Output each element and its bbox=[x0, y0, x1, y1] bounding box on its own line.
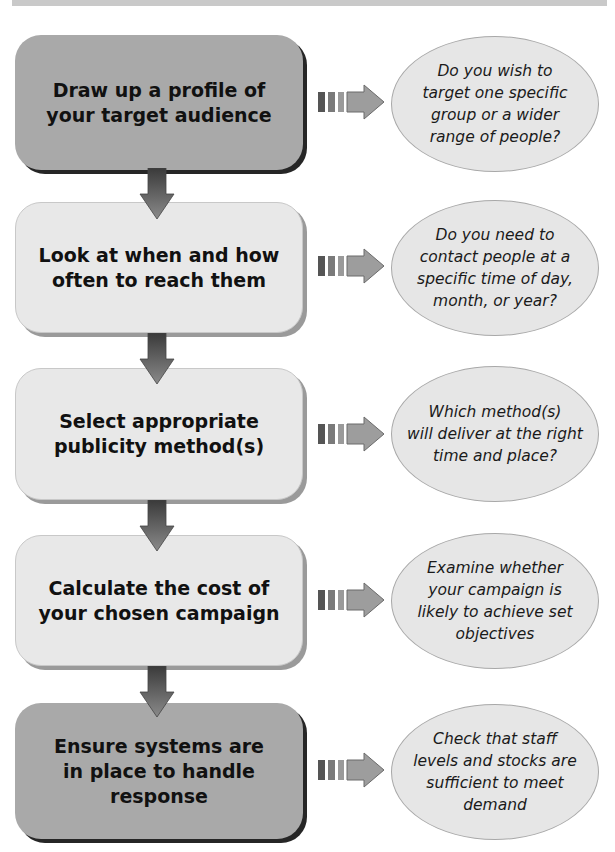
step-box-cost: Calculate the cost of your chosen campai… bbox=[15, 535, 303, 666]
down-arrow-icon bbox=[139, 500, 175, 552]
note-ellipse-cost: Examine whether your campaign is likely … bbox=[391, 533, 599, 669]
note-ellipse-timing: Do you need to contact people at a speci… bbox=[391, 200, 599, 336]
step-box-timing: Look at when and how often to reach them bbox=[15, 202, 303, 333]
down-arrow-icon bbox=[139, 333, 175, 385]
note-ellipse-audience: Do you wish to target one specific group… bbox=[391, 36, 599, 172]
note-ellipse-demand: Check that staff levels and stocks are s… bbox=[391, 704, 599, 840]
down-arrow-icon bbox=[139, 666, 175, 718]
step-box-response-systems: Ensure systems are in place to handle re… bbox=[15, 703, 303, 839]
striped-right-arrow-icon bbox=[316, 752, 386, 788]
step-box-profile-audience: Draw up a profile of your target audienc… bbox=[15, 35, 303, 170]
note-ellipse-methods: Which method(s) will deliver at the righ… bbox=[391, 366, 599, 502]
striped-right-arrow-icon bbox=[316, 248, 386, 284]
down-arrow-icon bbox=[139, 168, 175, 220]
top-rule bbox=[12, 0, 607, 6]
striped-right-arrow-icon bbox=[316, 84, 386, 120]
striped-right-arrow-icon bbox=[316, 416, 386, 452]
striped-right-arrow-icon bbox=[316, 582, 386, 618]
step-box-methods: Select appropriate publicity method(s) bbox=[15, 368, 303, 500]
